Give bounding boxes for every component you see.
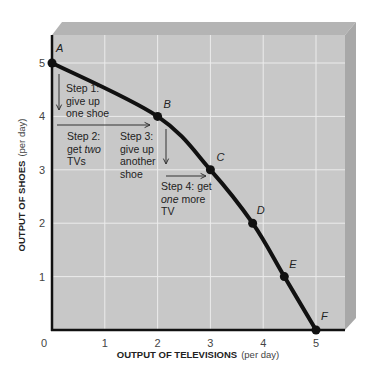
y-tick-labels: 12345 bbox=[39, 57, 45, 283]
annotation-text: one shoe bbox=[66, 107, 109, 119]
annotation-text: Step 1: bbox=[66, 82, 99, 94]
y-axis-label-main: OUTPUT OF SHOES bbox=[16, 161, 27, 252]
x-tick-label: 4 bbox=[260, 337, 266, 349]
annotation-text: one bbox=[161, 193, 179, 205]
annotation-text: give up bbox=[66, 95, 100, 107]
data-point-f bbox=[312, 326, 321, 335]
y-tick-label: 1 bbox=[39, 271, 45, 283]
bevel-side bbox=[345, 22, 356, 330]
point-label-e: E bbox=[289, 258, 297, 270]
annotation-text: Step 2: bbox=[67, 130, 100, 142]
x-axis-label: OUTPUT OF TELEVISIONS(per day) bbox=[117, 349, 279, 360]
data-point-d bbox=[248, 219, 257, 228]
y-tick-label: 3 bbox=[39, 164, 45, 176]
data-point-b bbox=[153, 112, 162, 121]
x-axis-label-main: OUTPUT OF TELEVISIONS bbox=[117, 349, 237, 360]
annotation-text: TVs bbox=[67, 155, 86, 167]
x-tick-label: 1 bbox=[102, 337, 108, 349]
data-point-e bbox=[280, 272, 289, 281]
point-label-d: D bbox=[257, 204, 265, 216]
point-label-b: B bbox=[164, 98, 171, 110]
y-axis-label: OUTPUT OF SHOES(per day) bbox=[16, 119, 27, 252]
annotation-text: more bbox=[179, 193, 206, 205]
point-label-a: A bbox=[55, 42, 63, 54]
annotation-text: get bbox=[67, 143, 85, 155]
data-point-c bbox=[206, 165, 215, 174]
annotation-text: another bbox=[120, 155, 156, 167]
point-label-c: C bbox=[216, 151, 224, 163]
annotation-text: TV bbox=[161, 205, 174, 217]
annotation-text: give up bbox=[120, 143, 154, 155]
x-axis-label-unit: (per day) bbox=[241, 349, 279, 360]
ppf-chart: 012345 12345 ABCDEF Step 1:give upone sh… bbox=[0, 0, 374, 376]
y-axis-label-unit: (per day) bbox=[16, 119, 27, 157]
data-point-a bbox=[48, 59, 57, 68]
annotation-text: Step 3: bbox=[120, 130, 153, 142]
annotation-text: Step 4: get bbox=[161, 180, 212, 192]
bevel-top bbox=[52, 22, 356, 35]
y-tick-label: 4 bbox=[39, 110, 45, 122]
x-tick-label: 3 bbox=[207, 337, 213, 349]
x-tick-label: 2 bbox=[155, 337, 161, 349]
y-tick-label: 5 bbox=[39, 57, 45, 69]
annotation-text: two bbox=[85, 143, 102, 155]
x-tick-label: 5 bbox=[313, 337, 319, 349]
x-tick-label: 0 bbox=[41, 337, 47, 349]
y-tick-label: 2 bbox=[39, 217, 45, 229]
annotation-text: shoe bbox=[120, 168, 143, 180]
x-tick-labels: 012345 bbox=[41, 337, 319, 349]
